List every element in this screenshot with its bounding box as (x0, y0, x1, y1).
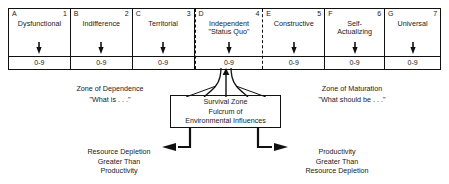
scale-cell-title: Dysfunctional (9, 20, 70, 28)
scale-cell-c: C3Territorial0-9 (133, 9, 195, 69)
scale-cell-title: Universal (385, 20, 440, 28)
arrow-down-icon (98, 42, 105, 54)
arrow-down-icon (36, 42, 43, 54)
scale-cell-upper: B2Indifference (71, 9, 132, 57)
scale-cell-number: 5 (317, 10, 321, 18)
survival-box-line-3: Environmental Influences (185, 116, 266, 125)
scale-cell-e: E5Constructive0-9 (263, 9, 325, 69)
scale-cell-f: F6Self- Actualizing0-9 (325, 9, 385, 69)
arrow-down-icon (351, 42, 358, 54)
zone-label-left: Zone of Dependence "What is . . ." (48, 83, 172, 105)
scale-cell-letter: C (136, 10, 141, 18)
scale-cell-number: 4 (255, 10, 259, 18)
arrow-down-icon (160, 42, 167, 54)
scale-cell-title: Self- Actualizing (325, 20, 384, 37)
zone-label-right: Zone of Maturation "What should be . . .… (283, 83, 421, 105)
scale-cell-letter: B (74, 10, 79, 18)
scale-cell-title: Territorial (133, 20, 194, 28)
arrow-down-icon (225, 42, 232, 54)
scale-cell-range: 0-9 (325, 57, 384, 69)
scale-cell-g: G7Universal0-9 (385, 9, 440, 69)
scale-cell-range: 0-9 (71, 57, 132, 69)
scale-cell-number: 7 (433, 10, 437, 18)
zone-left-question: "What is . . ." (48, 94, 172, 105)
scale-cell-letter: E (266, 10, 271, 18)
scale-cell-title: Indifference (71, 20, 132, 28)
survival-box-line-2: Fulcrum of (209, 107, 243, 116)
scale-cell-upper: D4Independent "Status Quo" (196, 9, 263, 57)
branch-label-left: Resource Depletion Greater Than Producti… (70, 147, 168, 176)
scale-cell-upper: C3Territorial (133, 9, 194, 57)
scale-cell-upper: G7Universal (385, 9, 440, 57)
arrow-down-icon (409, 42, 416, 54)
scale-cell-d: D4Independent "Status Quo"0-9 (195, 9, 264, 69)
scale-cell-range: 0-9 (133, 57, 194, 69)
scale-cell-letter: G (388, 10, 393, 18)
scale-cell-upper: F6Self- Actualizing (325, 9, 384, 57)
scale-cell-title: Constructive (263, 20, 324, 28)
zone-left-name: Zone of Dependence (48, 83, 172, 94)
scale-cell-upper: A1Dysfunctional (9, 9, 70, 57)
scale-cell-upper: E5Constructive (263, 9, 324, 57)
scale-cell-number: 1 (63, 10, 67, 18)
scale-cell-title: Independent "Status Quo" (196, 20, 263, 37)
survival-box-line-1: Survival Zone (204, 97, 248, 106)
arrow-down-icon (290, 42, 297, 54)
scale-cell-letter: A (12, 10, 17, 18)
scale-cell-letter: F (328, 10, 332, 18)
scale-cell-letter: D (199, 10, 204, 18)
zone-right-question: "What should be . . ." (283, 94, 421, 105)
survival-zone-box: Survival Zone Fulcrum of Environmental I… (170, 95, 281, 128)
scale-cell-range: 0-9 (9, 57, 70, 69)
influence-scale-bar: A1Dysfunctional0-9B2Indifference0-9C3Ter… (8, 8, 441, 70)
scale-cell-number: 3 (187, 10, 191, 18)
scale-cell-number: 6 (377, 10, 381, 18)
branch-label-right: Productivity Greater Than Resource Deple… (283, 147, 391, 176)
scale-cell-range: 0-9 (263, 57, 324, 69)
scale-cell-number: 2 (125, 10, 129, 18)
scale-cell-b: B2Indifference0-9 (71, 9, 133, 69)
zone-right-name: Zone of Maturation (283, 83, 421, 94)
scale-cell-a: A1Dysfunctional0-9 (9, 9, 71, 69)
scale-cell-range: 0-9 (385, 57, 440, 69)
